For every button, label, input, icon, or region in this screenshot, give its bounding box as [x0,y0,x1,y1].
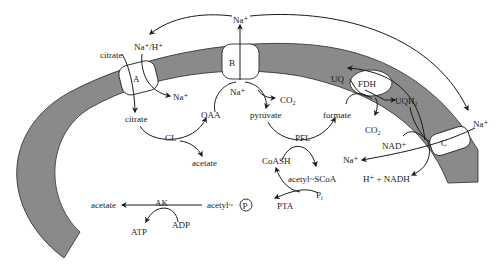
phosphate-circle: P [240,199,252,211]
label-coash: CoASH [262,156,291,166]
label-uqh2: UQH2 [395,96,418,107]
label-pfl-enzyme: PFL [295,133,311,143]
transporter-a: A [117,59,160,97]
label-co2-fdh: CO2 [365,125,381,136]
label-na-top: Na⁺ [233,15,248,25]
label-na-out-a: Na⁺ [173,92,188,102]
svg-text:P: P [243,201,248,211]
label-na-out-c: Na⁺ [473,119,488,129]
citrate-fermentation-diagram: A B FDH C Na⁺ citrate Na⁺/H⁺ Na⁺ citrate… [0,0,500,265]
label-na-in-b: Na⁺ [230,87,245,97]
label-pyruvate: pyruvate [250,110,282,120]
label-pta-enzyme: PTA [277,201,294,211]
label-co2-b: CO2 [280,95,296,106]
formate-dehydrogenase: FDH [350,70,392,96]
label-na-h-antiport: Na⁺/H⁺ [134,42,163,52]
label-ak-enzyme: AK [155,198,168,208]
label-na-in-c: Na⁺ [343,155,358,165]
acetate-cl-arrow [180,141,202,156]
label-acetyl-scoa: acetyl~SCoA [288,174,337,184]
label-formate: formate [323,110,351,120]
co2-release-arrow [258,90,275,98]
label-adp: ADP [172,220,190,230]
label-nad-plus: NAD⁺ [382,141,406,151]
label-oaa: OAA [201,110,221,120]
label-uq: UQ [331,74,344,84]
label-h-nadh: H⁺ + NADH [363,174,410,184]
label-cl-enzyme: CL [165,133,177,143]
fdh-label: FDH [358,79,377,89]
label-acetyl-p: acetyl~ [207,200,233,210]
label-atp: ATP [131,227,147,237]
transporter-a-label: A [133,74,140,84]
label-acetate-cl: acetate [192,158,217,168]
label-acetate-ak: acetate [91,200,116,210]
label-citrate-in: citrate [125,114,147,124]
label-citrate-out: citrate [100,50,122,60]
label-pi: Pi [316,190,323,201]
transporter-b-label: B [229,58,235,68]
